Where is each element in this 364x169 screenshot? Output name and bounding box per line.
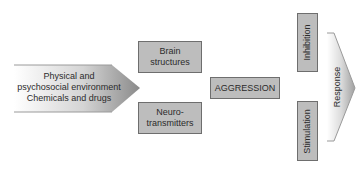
stimulation-label: Stimulation <box>302 109 313 154</box>
aggression-box: AGGRESSION <box>210 77 280 99</box>
neurotransmitters-line-1: Neuro- <box>146 107 193 118</box>
response-label: Response <box>332 67 342 108</box>
input-arrow: Physical and psychosocial environment Ch… <box>14 71 124 104</box>
neurotransmitters-line-2: transmitters <box>146 118 193 129</box>
inhibition-box: Inhibition <box>297 13 318 72</box>
input-arrow-line-2: psychosocial environment <box>14 82 124 93</box>
brain-structures-line-1: Brain <box>150 46 190 57</box>
response-arrow: Response <box>327 33 347 141</box>
brain-structures-line-2: structures <box>150 57 190 68</box>
input-arrow-line-1: Physical and <box>14 71 124 82</box>
inhibition-label: Inhibition <box>302 24 313 60</box>
input-arrow-line-3: Chemicals and drugs <box>14 93 124 104</box>
aggression-label: AGGRESSION <box>215 83 276 94</box>
stimulation-box: Stimulation <box>297 101 318 161</box>
brain-structures-box: Brain structures <box>138 41 202 73</box>
neurotransmitters-box: Neuro- transmitters <box>138 102 202 134</box>
